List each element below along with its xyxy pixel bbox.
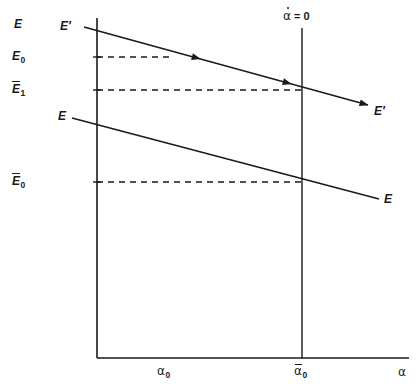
y-tick-label-Ebar0: E0 (12, 175, 25, 187)
y-tick-label-Ebar1: E1 (12, 83, 25, 95)
curve-label-E-prime-left: E′ (60, 20, 71, 32)
curve-label-E-prime-right: E′ (374, 105, 385, 117)
curve-E-prime (84, 27, 368, 105)
x-axis-label: α (398, 366, 406, 378)
direction-arrow-2 (282, 78, 293, 87)
curve-E (72, 118, 379, 199)
curve-label-E-right: E (384, 193, 392, 205)
phase-diagram-figure: E E0 E1 E0 α0 α0 α α = 0 E′ E′ E E (0, 0, 420, 389)
y-axis-label: E (14, 18, 22, 30)
alpha-dot-zero-label: α = 0 (283, 10, 310, 22)
y-tick-label-E0: E0 (12, 50, 25, 62)
direction-arrow-1 (191, 53, 202, 62)
x-tick-label-alphabar0: α0 (294, 365, 307, 377)
x-tick-label-alpha0: α0 (157, 365, 170, 377)
diagram-canvas (0, 0, 420, 389)
curve-label-E-left: E (58, 110, 66, 122)
